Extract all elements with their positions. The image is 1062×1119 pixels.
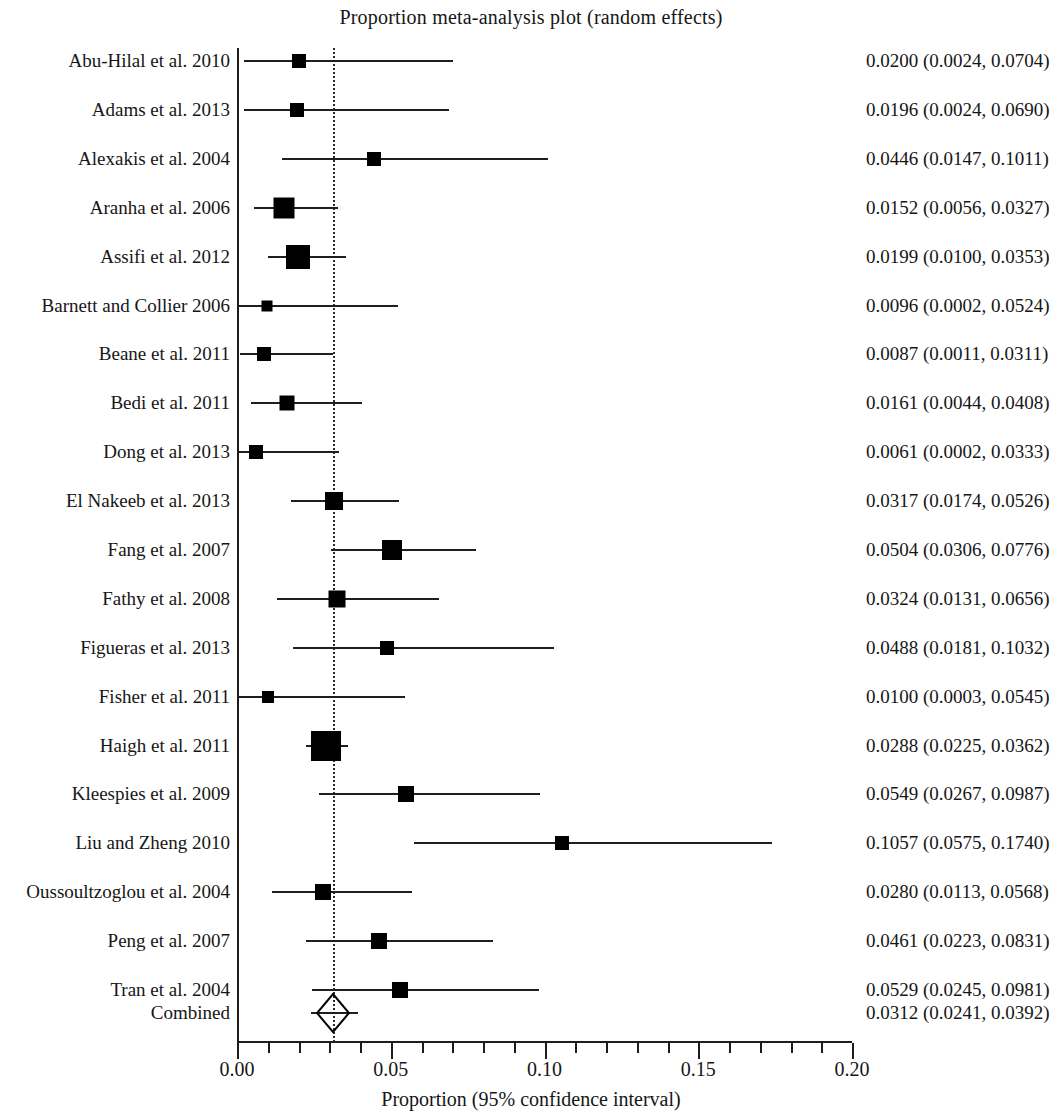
confidence-interval-line — [331, 549, 476, 551]
study-effect-marker — [325, 492, 343, 510]
x-tick-major — [237, 1043, 239, 1059]
study-label: Assifi et al. 2012 — [100, 246, 230, 268]
x-tick-minor — [575, 1043, 577, 1053]
study-effect-marker — [367, 152, 381, 166]
study-effect-marker — [380, 641, 394, 655]
study-label: Fisher et al. 2011 — [99, 686, 230, 708]
effect-estimate-text: 0.0461 (0.0223, 0.0831) — [866, 930, 1050, 952]
combined-effect-diamond — [316, 993, 350, 1033]
x-tick-label: 0.20 — [835, 1058, 870, 1081]
study-effect-marker — [249, 445, 263, 459]
confidence-interval-line — [240, 353, 332, 355]
study-label: Bedi et al. 2011 — [110, 392, 230, 414]
study-label: Alexakis et al. 2004 — [78, 148, 230, 170]
page-title: Proportion meta-analysis plot (random ef… — [0, 6, 1062, 29]
x-tick-minor — [821, 1043, 823, 1053]
effect-estimate-text: 0.0549 (0.0267, 0.0987) — [866, 783, 1050, 805]
study-effect-marker — [311, 731, 341, 761]
x-tick-minor — [483, 1043, 485, 1053]
effect-estimate-text: 0.0100 (0.0003, 0.0545) — [866, 686, 1050, 708]
x-tick-minor — [329, 1043, 331, 1053]
confidence-interval-line — [282, 158, 548, 160]
effect-estimate-text: 0.0087 (0.0011, 0.0311) — [866, 343, 1048, 365]
study-label: Aranha et al. 2006 — [90, 197, 230, 219]
confidence-interval-line — [306, 940, 493, 942]
study-effect-marker — [398, 786, 414, 802]
x-tick-major — [545, 1043, 547, 1059]
effect-estimate-text: 0.0196 (0.0024, 0.0690) — [866, 99, 1050, 121]
confidence-interval-line — [254, 207, 337, 209]
confidence-interval-line — [414, 842, 772, 844]
study-effect-marker — [257, 347, 271, 361]
x-tick-minor — [422, 1043, 424, 1053]
x-tick-minor — [760, 1043, 762, 1053]
study-label: El Nakeeb et al. 2013 — [66, 490, 230, 512]
x-tick-label: 0.00 — [220, 1058, 255, 1081]
x-tick-minor — [268, 1043, 270, 1053]
effect-estimate-text: 0.0312 (0.0241, 0.0392) — [866, 1002, 1050, 1024]
effect-estimate-text: 0.0199 (0.0100, 0.0353) — [866, 246, 1050, 268]
study-effect-marker — [328, 591, 345, 608]
study-label: Fathy et al. 2008 — [102, 588, 230, 610]
study-label: Peng et al. 2007 — [108, 930, 230, 952]
study-label: Beane et al. 2011 — [99, 343, 230, 365]
x-tick-label: 0.15 — [681, 1058, 716, 1081]
study-label: Liu and Zheng 2010 — [75, 832, 230, 854]
study-effect-marker — [286, 245, 310, 269]
effect-estimate-text: 0.0061 (0.0002, 0.0333) — [866, 441, 1050, 463]
study-label: Adams et al. 2013 — [92, 99, 230, 121]
effect-estimate-text: 0.0152 (0.0056, 0.0327) — [866, 197, 1050, 219]
effect-estimate-text: 0.0096 (0.0002, 0.0524) — [866, 295, 1050, 317]
confidence-interval-line — [244, 60, 453, 62]
study-effect-marker — [262, 691, 274, 703]
confidence-interval-line — [293, 647, 555, 649]
x-tick-minor — [514, 1043, 516, 1053]
x-tick-major — [698, 1043, 700, 1059]
y-axis-line — [237, 48, 239, 1042]
x-tick-minor — [360, 1043, 362, 1053]
study-effect-marker — [371, 933, 387, 949]
x-axis-label: Proportion (95% confidence interval) — [0, 1088, 1062, 1111]
effect-estimate-text: 0.0504 (0.0306, 0.0776) — [866, 539, 1050, 561]
x-tick-label: 0.05 — [373, 1058, 408, 1081]
study-label: Kleespies et al. 2009 — [72, 783, 230, 805]
confidence-interval-line — [312, 989, 538, 991]
study-effect-marker — [315, 884, 331, 900]
effect-estimate-text: 0.0529 (0.0245, 0.0981) — [866, 979, 1050, 1001]
confidence-interval-line — [272, 891, 412, 893]
study-effect-marker — [290, 103, 304, 117]
study-effect-marker — [392, 982, 408, 998]
x-tick-minor — [452, 1043, 454, 1053]
study-label: Dong et al. 2013 — [103, 441, 230, 463]
study-effect-marker — [292, 54, 306, 68]
effect-estimate-text: 0.0446 (0.0147, 0.1011) — [866, 148, 1049, 170]
effect-estimate-text: 0.0280 (0.0113, 0.0568) — [866, 881, 1049, 903]
x-tick-minor — [299, 1043, 301, 1053]
x-tick-minor — [729, 1043, 731, 1053]
effect-estimate-text: 0.0488 (0.0181, 0.1032) — [866, 637, 1050, 659]
x-tick-major — [391, 1043, 393, 1059]
forest-plot-figure: Proportion meta-analysis plot (random ef… — [0, 0, 1062, 1119]
study-effect-marker — [555, 836, 569, 850]
confidence-interval-line — [244, 109, 449, 111]
x-tick-major — [852, 1043, 854, 1059]
study-effect-marker — [273, 198, 294, 219]
study-label: Combined — [151, 1002, 230, 1024]
confidence-interval-line — [319, 793, 540, 795]
x-tick-label: 0.10 — [527, 1058, 562, 1081]
confidence-interval-line — [291, 500, 399, 502]
study-label: Oussoultzoglou et al. 2004 — [26, 881, 230, 903]
study-label: Barnett and Collier 2006 — [42, 295, 230, 317]
x-tick-minor — [668, 1043, 670, 1053]
study-effect-marker — [382, 540, 402, 560]
confidence-interval-line — [251, 402, 363, 404]
study-label: Abu-Hilal et al. 2010 — [69, 50, 230, 72]
effect-estimate-text: 0.0317 (0.0174, 0.0526) — [866, 490, 1050, 512]
study-label: Fang et al. 2007 — [108, 539, 230, 561]
effect-estimate-text: 0.0200 (0.0024, 0.0704) — [866, 50, 1050, 72]
x-tick-minor — [791, 1043, 793, 1053]
x-tick-minor — [606, 1043, 608, 1053]
study-label: Haigh et al. 2011 — [100, 735, 230, 757]
effect-estimate-text: 0.0324 (0.0131, 0.0656) — [866, 588, 1050, 610]
confidence-interval-line — [277, 598, 438, 600]
